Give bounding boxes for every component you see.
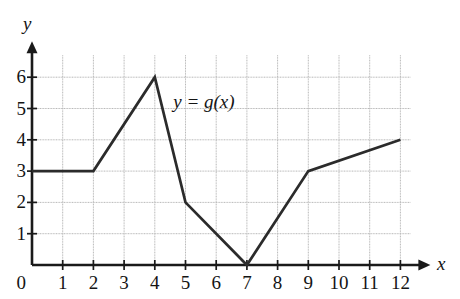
x-axis-arrowhead (418, 260, 430, 271)
x-tick-label: 4 (143, 273, 167, 292)
x-tick-label: 7 (235, 273, 259, 292)
curve-annotation-label: y = g(x) (173, 92, 234, 111)
x-tick-label: 8 (266, 273, 290, 292)
graph-figure: y x 0 123456789101112 123456 y = g(x) (0, 0, 460, 299)
x-tick-label: 1 (51, 273, 75, 292)
x-tick-label: 12 (388, 273, 412, 292)
y-tick-label: 4 (8, 130, 26, 149)
x-tick-label: 9 (296, 273, 320, 292)
x-axis-label: x (437, 254, 445, 273)
y-tick-label: 5 (8, 99, 26, 118)
x-tick-label: 10 (327, 273, 351, 292)
x-tick-label: 11 (358, 273, 382, 292)
y-tick-label: 6 (8, 67, 26, 86)
x-tick-label: 6 (204, 273, 228, 292)
y-axis-label: y (23, 14, 31, 33)
origin-tick-label: 0 (8, 273, 26, 292)
x-tick-label: 2 (81, 273, 105, 292)
y-tick-label: 3 (8, 161, 26, 180)
x-tick-label: 5 (174, 273, 198, 292)
x-tick-label: 3 (112, 273, 136, 292)
plot-area (0, 0, 460, 299)
y-tick-label: 1 (8, 224, 26, 243)
y-axis-arrowhead (27, 41, 38, 53)
y-tick-label: 2 (8, 192, 26, 211)
